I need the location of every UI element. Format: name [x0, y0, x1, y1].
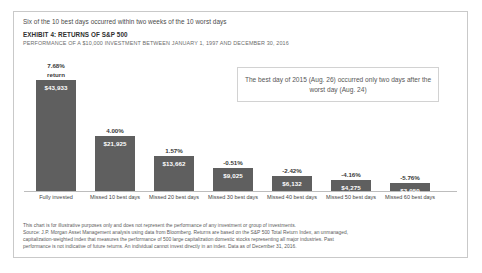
- bar: $43,933: [36, 80, 76, 191]
- category-label: Fully invested: [27, 194, 85, 201]
- bar-value-label: $13,662: [154, 160, 194, 167]
- bar-group: 4.00%$21,925: [95, 136, 135, 191]
- bar-group: -5.76%$3,050: [390, 183, 430, 191]
- bar-value-label: $9,025: [213, 172, 253, 179]
- bar-group: 7.68%return$43,933: [36, 80, 76, 191]
- exhibit-title: EXHIBIT 4: RETURNS OF S&P 500: [23, 31, 128, 38]
- category-label: Missed 60 best days: [381, 194, 439, 201]
- footnote-line-1: This chart is for illustrative purposes …: [23, 222, 460, 229]
- bar: $13,662: [154, 156, 194, 191]
- bar-return-label: -0.51%: [199, 159, 267, 166]
- footnote-line-4: performance is not indicative of future …: [23, 243, 460, 250]
- exhibit-frame: Six of the 10 best days occurred within …: [13, 11, 468, 258]
- bar-return-label: -2.42%: [258, 167, 326, 174]
- callout-box: The best day of 2015 (Aug. 26) occurred …: [237, 67, 439, 102]
- bar-return-sublabel: return: [22, 71, 90, 78]
- bar-group: -4.16%$4,275: [331, 180, 371, 191]
- bar-value-label: $43,933: [36, 84, 76, 91]
- bar-return-label: 1.57%: [140, 147, 208, 154]
- bar-value-label: $4,275: [331, 184, 371, 191]
- bar-value-label: $21,925: [95, 140, 135, 147]
- bar-value-label: $6,132: [272, 180, 312, 187]
- bar-return-label: -4.16%: [317, 171, 385, 178]
- kicker-text: Six of the 10 best days occurred within …: [23, 17, 453, 26]
- footnote: This chart is for illustrative purposes …: [23, 222, 460, 250]
- bar-chart: 7.68%return$43,9334.00%$21,9251.57%$13,6…: [14, 50, 467, 220]
- bar: $4,275: [331, 180, 371, 191]
- bar: $6,132: [272, 176, 312, 191]
- bar: $21,925: [95, 136, 135, 191]
- category-label: Missed 30 best days: [204, 194, 262, 201]
- bar-group: 1.57%$13,662: [154, 156, 194, 191]
- category-label: Missed 10 best days: [86, 194, 144, 201]
- exhibit-subtitle: PERFORMANCE OF A $10,000 INVESTMENT BETW…: [23, 40, 289, 46]
- category-label: Missed 40 best days: [263, 194, 321, 201]
- callout-text: The best day of 2015 (Aug. 26) occurred …: [238, 75, 438, 95]
- bar-return-label: 4.00%: [81, 127, 149, 134]
- bar-group: -2.42%$6,132: [272, 176, 312, 191]
- category-label: Missed 50 best days: [322, 194, 380, 201]
- bar: $3,050: [390, 183, 430, 191]
- bar-return-label: -5.76%: [376, 174, 444, 181]
- category-label: Missed 20 best days: [145, 194, 203, 201]
- footnote-line-2: Source: J.P. Morgan Asset Management ana…: [23, 229, 460, 236]
- bar-group: -0.51%$9,025: [213, 168, 253, 191]
- bar-return-label: 7.68%: [22, 62, 90, 69]
- bar-value-label: $3,050: [390, 187, 430, 194]
- bar: $9,025: [213, 168, 253, 191]
- footnote-line-3: capitalization-weighted index that measu…: [23, 236, 460, 243]
